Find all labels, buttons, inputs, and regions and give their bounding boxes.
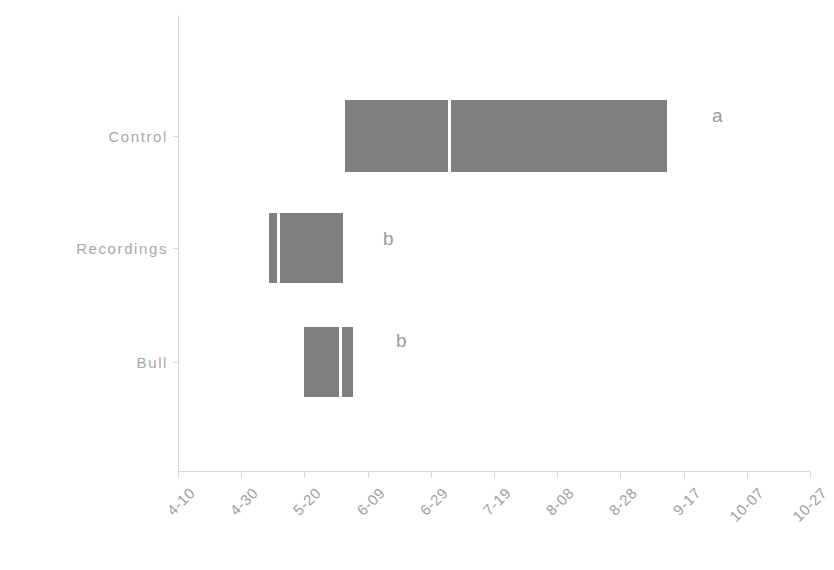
x-axis-label-3: 6-09 (353, 484, 388, 519)
x-axis-label-7: 8-28 (605, 484, 640, 519)
median-line-bull (339, 327, 342, 397)
significance-letter-bull: b (396, 331, 407, 350)
y-axis-label-recordings: Recordings (76, 240, 168, 257)
x-axis-label-5: 7-19 (479, 484, 514, 519)
chart-container: Control Recordings Bull a b b 4-10 4-30 … (0, 0, 834, 570)
x-tick-10 (810, 472, 811, 478)
x-axis-label-0: 4-10 (163, 484, 198, 519)
x-tick-4 (431, 472, 432, 478)
x-tick-1 (241, 472, 242, 478)
x-tick-2 (304, 472, 305, 478)
y-tick-control (173, 136, 179, 137)
y-tick-recordings (173, 248, 179, 249)
x-axis-label-2: 5-20 (289, 484, 324, 519)
x-tick-0 (178, 472, 179, 478)
x-axis-label-8: 9-17 (669, 484, 704, 519)
median-line-control (448, 100, 451, 172)
median-line-recordings (277, 213, 280, 283)
y-tick-bull (173, 362, 179, 363)
significance-letter-recordings: b (383, 229, 394, 248)
x-tick-5 (494, 472, 495, 478)
x-axis-label-1: 4-30 (226, 484, 261, 519)
x-tick-9 (747, 472, 748, 478)
x-tick-8 (684, 472, 685, 478)
box-recordings (269, 213, 343, 283)
y-axis-label-bull: Bull (137, 354, 168, 371)
x-tick-3 (368, 472, 369, 478)
box-control (345, 100, 667, 172)
y-axis-labels: Control Recordings Bull (0, 0, 168, 570)
x-axis-label-6: 8-08 (542, 484, 577, 519)
y-axis-label-control: Control (108, 128, 168, 145)
x-tick-6 (557, 472, 558, 478)
box-bull (304, 327, 353, 397)
x-axis-label-9: 10-07 (726, 484, 767, 525)
x-tick-7 (620, 472, 621, 478)
x-axis-label-10: 10-27 (789, 484, 830, 525)
significance-letter-control: a (712, 106, 723, 125)
x-axis-label-4: 6-29 (416, 484, 451, 519)
